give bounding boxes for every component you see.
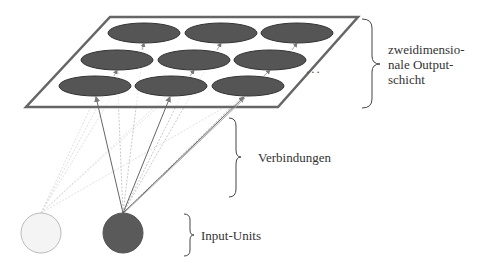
output-layer-label-line: schicht xyxy=(388,72,465,87)
output-unit xyxy=(185,23,257,43)
connections-label: Verbindungen xyxy=(258,150,331,165)
input-unit-inactive xyxy=(21,213,61,253)
output-unit xyxy=(135,76,207,96)
brace-inputs xyxy=(184,214,194,256)
output-unit xyxy=(108,23,180,43)
output-unit xyxy=(158,50,230,70)
output-unit xyxy=(261,23,333,43)
output-unit xyxy=(234,50,306,70)
output-layer-label: zweidimensio- nale Output- schicht xyxy=(388,42,465,87)
output-unit xyxy=(212,76,284,96)
brace-connections xyxy=(229,118,241,197)
ellipsis-more-units: ... xyxy=(306,61,322,77)
output-layer-label-line: nale Output- xyxy=(388,57,465,72)
output-layer-label-line: zweidimensio- xyxy=(388,42,465,57)
main-connections xyxy=(96,97,245,213)
brace-output-layer xyxy=(362,19,380,108)
input-units-label: Input-Units xyxy=(201,228,261,243)
input-unit-active xyxy=(103,213,143,253)
output-unit xyxy=(81,50,153,70)
output-unit xyxy=(59,76,131,96)
